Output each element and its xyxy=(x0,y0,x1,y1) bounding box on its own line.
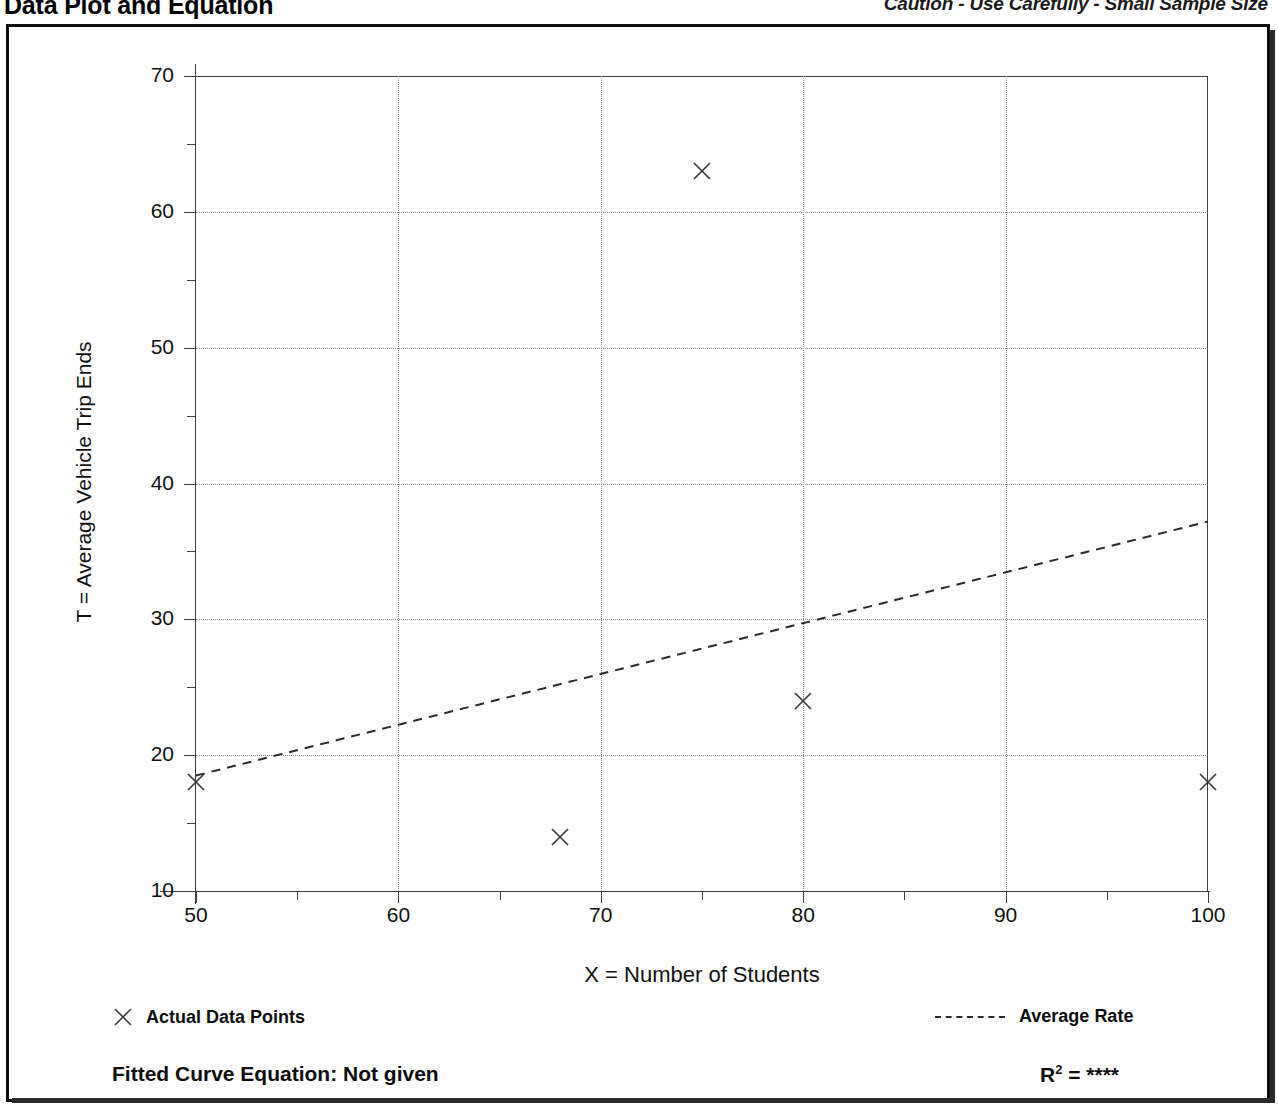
x-tick-label: 70 xyxy=(561,903,641,927)
y-tick-minor xyxy=(187,551,196,552)
x-tick-minor xyxy=(1107,891,1108,900)
fitted-curve-equation: Fitted Curve Equation: Not given xyxy=(112,1062,439,1086)
y-tick-minor xyxy=(187,823,196,824)
y-tick-minor xyxy=(187,687,196,688)
legend-average-rate: Average Rate xyxy=(935,1006,1133,1027)
y-tick-label: 20 xyxy=(114,742,174,766)
gridline-horizontal xyxy=(196,212,1208,213)
x-tick-major xyxy=(601,891,602,903)
x-tick-label: 90 xyxy=(966,903,1046,927)
y-tick-major xyxy=(184,76,196,77)
r-squared-number: = **** xyxy=(1068,1063,1119,1086)
gridline-vertical xyxy=(1006,76,1007,891)
x-tick-label: 100 xyxy=(1168,903,1248,927)
x-tick-label: 50 xyxy=(156,903,236,927)
y-tick-label: 70 xyxy=(114,63,174,87)
y-tick-major xyxy=(184,755,196,756)
data-point-marker xyxy=(691,160,713,182)
data-point-marker xyxy=(185,771,207,793)
y-tick-label: 10 xyxy=(114,878,174,902)
r-squared-prefix: R xyxy=(1040,1063,1055,1086)
y-tick-minor xyxy=(187,144,196,145)
gridline-horizontal xyxy=(196,348,1208,349)
x-tick-minor xyxy=(297,891,298,900)
chart-page: Data Plot and Equation Caution - Use Car… xyxy=(0,0,1278,1107)
y-tick-label: 30 xyxy=(114,606,174,630)
x-tick-major xyxy=(1208,891,1209,903)
x-tick-minor xyxy=(500,891,501,900)
y-tick-minor xyxy=(187,416,196,417)
y-tick-label: 50 xyxy=(114,335,174,359)
x-tick-major xyxy=(196,891,197,903)
y-tick-minor xyxy=(187,280,196,281)
y-axis-title: T = Average Vehicle Trip Ends xyxy=(72,222,96,742)
gridline-horizontal xyxy=(196,484,1208,485)
x-tick-label: 60 xyxy=(358,903,438,927)
r-squared-exponent: 2 xyxy=(1055,1062,1062,1077)
y-tick-major xyxy=(184,348,196,349)
legend-actual-data-points: Actual Data Points xyxy=(112,1006,305,1028)
plot-region: 102030405060705060708090100 T = Average … xyxy=(0,0,1278,1107)
gridline-horizontal xyxy=(196,619,1208,620)
y-tick-major xyxy=(184,212,196,213)
x-tick-major xyxy=(1006,891,1007,903)
data-point-marker xyxy=(549,826,571,848)
data-point-marker xyxy=(792,690,814,712)
x-tick-major xyxy=(398,891,399,903)
data-point-marker xyxy=(1197,771,1219,793)
y-tick-label: 60 xyxy=(114,199,174,223)
x-axis-title: X = Number of Students xyxy=(196,962,1208,988)
y-tick-major xyxy=(184,619,196,620)
legend-label-average-rate: Average Rate xyxy=(1019,1006,1133,1027)
y-tick-major xyxy=(184,891,196,892)
y-tick-label: 40 xyxy=(114,471,174,495)
y-tick-major xyxy=(184,484,196,485)
x-marker-icon xyxy=(112,1006,134,1028)
x-tick-minor xyxy=(702,891,703,900)
x-axis-line xyxy=(160,891,1210,892)
gridline-vertical xyxy=(398,76,399,891)
legend-label-actual-data-points: Actual Data Points xyxy=(146,1007,305,1028)
dashed-line-icon xyxy=(935,1016,1005,1018)
r-squared-value: R2 = **** xyxy=(1040,1062,1119,1087)
x-tick-major xyxy=(803,891,804,903)
x-tick-label: 80 xyxy=(763,903,843,927)
gridline-vertical xyxy=(601,76,602,891)
gridline-horizontal xyxy=(196,755,1208,756)
x-tick-minor xyxy=(904,891,905,900)
gridline-vertical xyxy=(803,76,804,891)
